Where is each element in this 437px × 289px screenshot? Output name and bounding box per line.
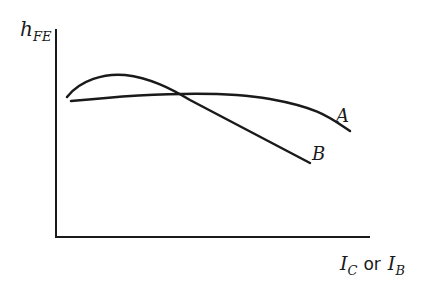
curve-a-label: A: [334, 105, 349, 126]
hfe-vs-current-diagram: hFE A B ICorIB: [0, 0, 437, 289]
curve-b: [67, 75, 310, 163]
curve-b-label: B: [311, 143, 325, 164]
curve-a: [71, 94, 350, 131]
x-axis-label: ICorIB: [339, 252, 405, 278]
y-axis-label: hFE: [20, 17, 52, 44]
